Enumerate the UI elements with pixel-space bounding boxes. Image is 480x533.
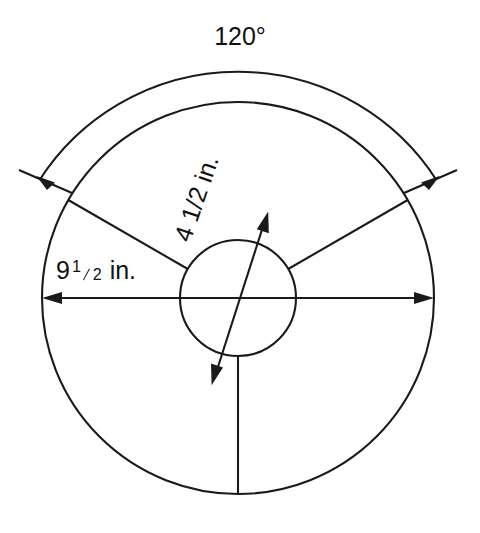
inner-diameter-arrowhead-upper <box>257 211 269 233</box>
outer-diameter-numerator: 1 <box>72 257 81 275</box>
outer-diameter-fraction: 12 <box>72 259 102 284</box>
angle-extension-tick-left <box>19 170 72 193</box>
angle-arc <box>40 72 437 180</box>
outer-diameter-unit: in. <box>110 256 136 284</box>
angle-label: 120° <box>0 24 480 49</box>
angle-extension-tick-right <box>404 170 457 193</box>
diagram-root: 120° 912 in. 4 1/2 in. <box>0 0 480 533</box>
outer-diameter-arrowhead-left <box>42 292 62 304</box>
spoke-upper-right <box>288 200 408 269</box>
spokes-group <box>68 200 407 494</box>
fraction-bar-icon <box>83 269 90 281</box>
inner-diameter-arrowhead-lower <box>211 364 223 386</box>
outer-diameter-arrowhead-right <box>414 292 434 304</box>
outer-diameter-whole: 9 <box>56 256 70 284</box>
outer-diameter-label: 912 in. <box>56 258 136 284</box>
outer-diameter-denominator: 2 <box>93 265 102 283</box>
